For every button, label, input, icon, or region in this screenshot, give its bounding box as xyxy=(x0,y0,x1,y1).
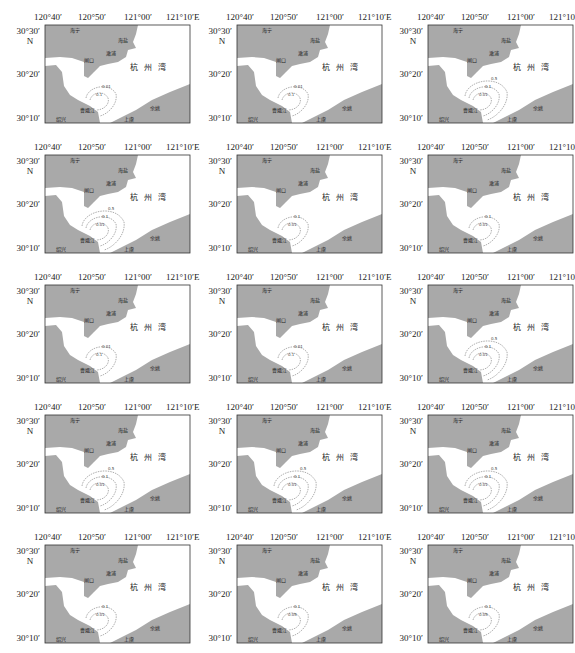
contour-label: 0.5 xyxy=(491,466,498,471)
map-panel-r3c2: 120°40′ 120°50′ 121°00′ 121°10′ E 30°30′… xyxy=(192,260,384,390)
label-shangyu: 上虞 xyxy=(507,636,517,643)
contour-label: 0.01 xyxy=(294,344,303,349)
contour-label: 0.1 xyxy=(102,214,109,219)
x-tick: 120°40′ xyxy=(34,272,62,282)
label-haining: 海宁 xyxy=(262,27,272,34)
label-yuyao: 余姚 xyxy=(533,365,543,372)
x-tick: 120°40′ xyxy=(34,402,62,412)
label-yuyao: 余姚 xyxy=(342,495,352,502)
y-unit: N xyxy=(27,426,34,436)
x-tick: 120°40′ xyxy=(417,272,445,282)
map-panel-r2c2: 120°40′ 120°50′ 121°00′ 121°10′ E 30°30′… xyxy=(192,130,384,260)
x-tick: 121°00′ xyxy=(507,272,535,282)
map-figure: 120°40′ 120°50′ 121°00′ 121°10′ E 30°30′… xyxy=(0,520,192,650)
label-hangzhou-bay: 杭州湾 xyxy=(513,582,555,592)
label-haining: 海宁 xyxy=(262,547,272,554)
y-unit: N xyxy=(219,556,226,566)
y-tick: 30°20′ xyxy=(399,589,423,599)
x-tick: 120°50′ xyxy=(270,532,298,542)
label-caoejiang: 曹娥江 xyxy=(463,107,478,114)
y-tick: 30°30′ xyxy=(208,26,232,36)
x-tick: 121°00′ xyxy=(507,142,535,152)
contour-label: 0.01 xyxy=(96,482,105,487)
y-tick: 30°10′ xyxy=(16,113,40,123)
label-shangyu: 上虞 xyxy=(316,116,326,123)
label-ganpu: 澉浦 xyxy=(106,570,116,577)
label-haining: 海宁 xyxy=(70,287,80,294)
label-shangyu: 上虞 xyxy=(507,246,517,253)
label-hangzhou-bay: 杭州湾 xyxy=(130,452,172,462)
map-panel-r2c1: 120°40′ 120°50′ 121°00′ 121°10′ E 30°30′… xyxy=(0,130,192,260)
label-ganpu: 澉浦 xyxy=(298,180,308,187)
y-tick: 30°10′ xyxy=(16,243,40,253)
map-figure: 120°40′ 120°50′ 121°00′ 121°10′ E 30°30′… xyxy=(0,390,192,520)
y-tick: 30°10′ xyxy=(208,633,232,643)
x-tick: 121°10′ xyxy=(549,532,575,542)
label-haining: 海宁 xyxy=(70,157,80,164)
label-caoejiang: 曹娥江 xyxy=(80,367,95,374)
y-unit: N xyxy=(27,556,34,566)
contour-label: 0.01 xyxy=(288,222,297,227)
y-tick: 30°10′ xyxy=(399,633,423,643)
label-hangzhou-bay: 杭州湾 xyxy=(322,452,364,462)
y-tick: 30°10′ xyxy=(399,373,423,383)
y-tick: 30°30′ xyxy=(16,546,40,556)
label-hangzhou-bay: 杭州湾 xyxy=(322,582,364,592)
y-tick: 30°20′ xyxy=(16,69,40,79)
label-shangyu: 上虞 xyxy=(316,636,326,643)
y-tick: 30°20′ xyxy=(208,459,232,469)
contour-label: 0.01 xyxy=(102,344,111,349)
contour-label: 0.1 xyxy=(485,344,492,349)
map-panel-r3c1: 120°40′ 120°50′ 121°00′ 121°10′ E 30°30′… xyxy=(0,260,192,390)
label-yuyao: 余姚 xyxy=(342,625,352,632)
label-zhakou: 闸口 xyxy=(467,317,477,324)
y-unit: N xyxy=(27,296,34,306)
label-haiyan: 海盐 xyxy=(501,297,511,304)
label-haining: 海宁 xyxy=(70,27,80,34)
contour-label: 0.01 xyxy=(479,482,488,487)
label-ganpu: 澉浦 xyxy=(489,310,499,317)
label-shaoxing: 绍兴 xyxy=(56,506,66,513)
label-ganpu: 澉浦 xyxy=(489,50,499,57)
label-haining: 海宁 xyxy=(453,417,463,424)
y-tick: 30°30′ xyxy=(208,546,232,556)
label-hangzhou-bay: 杭州湾 xyxy=(513,62,555,72)
y-unit: N xyxy=(219,296,226,306)
label-zhakou: 闸口 xyxy=(467,447,477,454)
map-figure: 120°40′ 120°50′ 121°00′ 121°10′ E 30°30′… xyxy=(192,390,384,520)
label-hangzhou-bay: 杭州湾 xyxy=(130,582,172,592)
label-zhakou: 闸口 xyxy=(467,577,477,584)
x-tick: 121°00′ xyxy=(124,272,152,282)
x-tick: 121°00′ xyxy=(507,532,535,542)
contour-label: 0.1 xyxy=(288,92,295,97)
x-tick: 121°10′ xyxy=(549,402,575,412)
label-ganpu: 澉浦 xyxy=(106,180,116,187)
label-shangyu: 上虞 xyxy=(507,506,517,513)
label-yuyao: 余姚 xyxy=(533,105,543,112)
y-unit: N xyxy=(410,426,417,436)
label-haiyan: 海盐 xyxy=(501,427,511,434)
label-haiyan: 海盐 xyxy=(118,37,128,44)
label-haining: 海宁 xyxy=(262,287,272,294)
label-zhakou: 闸口 xyxy=(84,187,94,194)
y-unit: N xyxy=(27,36,34,46)
x-tick: 120°40′ xyxy=(417,532,445,542)
x-tick: 121°00′ xyxy=(124,142,152,152)
map-panel-r3c3: 120°40′ 120°50′ 121°00′ 121°10′ E 30°30′… xyxy=(383,260,575,390)
y-tick: 30°20′ xyxy=(208,329,232,339)
map-panel-r4c1: 120°40′ 120°50′ 121°00′ 121°10′ E 30°30′… xyxy=(0,390,192,520)
label-haining: 海宁 xyxy=(70,547,80,554)
label-ganpu: 澉浦 xyxy=(489,440,499,447)
label-shaoxing: 绍兴 xyxy=(248,506,258,513)
label-yuyao: 余姚 xyxy=(342,235,352,242)
contour-label: 0.1 xyxy=(102,474,109,479)
y-tick: 30°30′ xyxy=(16,286,40,296)
x-tick: 120°50′ xyxy=(270,402,298,412)
label-shaoxing: 绍兴 xyxy=(56,116,66,123)
x-tick: 120°50′ xyxy=(78,402,106,412)
contour-label: 0.1 xyxy=(485,604,492,609)
label-haiyan: 海盐 xyxy=(118,167,128,174)
label-ganpu: 澉浦 xyxy=(489,570,499,577)
x-tick: 120°50′ xyxy=(78,12,106,22)
x-tick: 120°50′ xyxy=(461,532,489,542)
